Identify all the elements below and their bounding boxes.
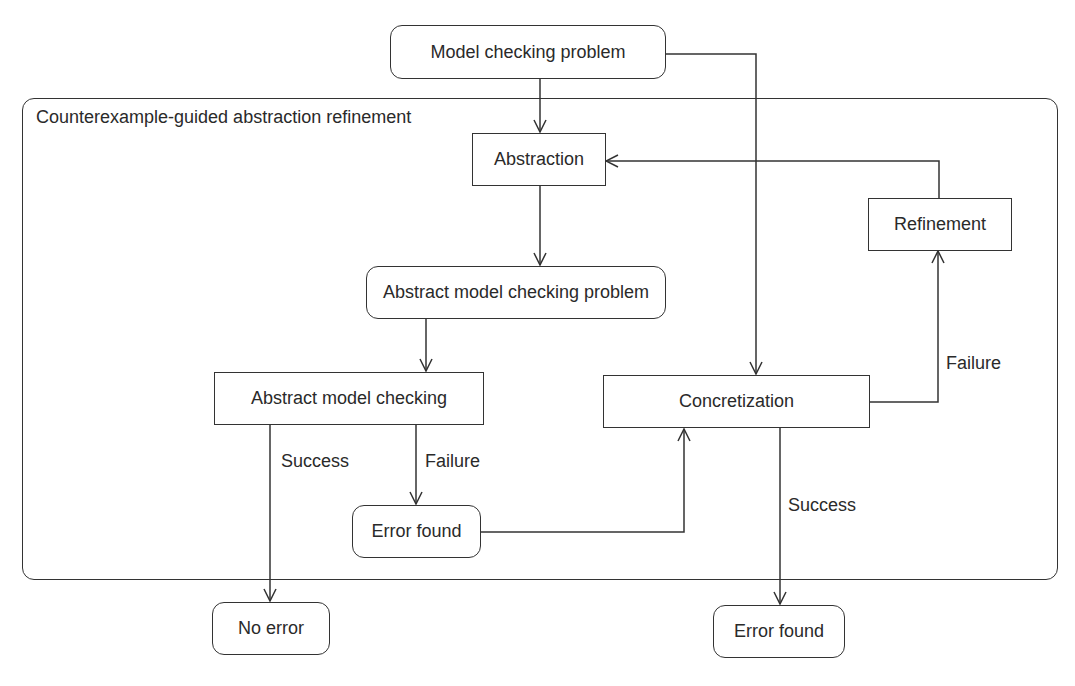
edge-label-amc-success: Success	[281, 451, 349, 472]
node-label: Model checking problem	[430, 42, 625, 63]
node-model-checking-problem: Model checking problem	[390, 25, 666, 79]
node-no-error: No error	[212, 602, 330, 655]
node-label: No error	[238, 618, 304, 639]
node-label: Error found	[734, 621, 824, 642]
node-refinement: Refinement	[868, 198, 1012, 251]
node-abstract-model-checking-problem: Abstract model checking problem	[366, 266, 666, 319]
node-label: Abstraction	[494, 149, 584, 170]
edge-label-concretization-failure: Failure	[946, 353, 1001, 374]
node-label: Error found	[371, 521, 461, 542]
edge-label-concretization-success: Success	[788, 495, 856, 516]
node-abstract-model-checking: Abstract model checking	[214, 372, 484, 425]
node-concretization: Concretization	[603, 375, 870, 428]
node-error-found-outer: Error found	[713, 605, 845, 658]
edge-label-amc-failure: Failure	[425, 451, 480, 472]
node-label: Concretization	[679, 391, 794, 412]
cegar-container-title: Counterexample-guided abstraction refine…	[36, 107, 411, 128]
node-label: Refinement	[894, 214, 986, 235]
node-label: Abstract model checking	[251, 388, 447, 409]
node-label: Abstract model checking problem	[383, 282, 649, 303]
node-error-found-inner: Error found	[352, 505, 481, 558]
node-abstraction: Abstraction	[472, 133, 606, 186]
